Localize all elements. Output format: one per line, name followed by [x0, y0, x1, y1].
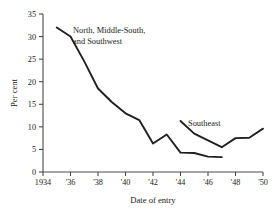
- y-axis-ticks: [39, 14, 43, 172]
- series-label-north-middlesouth-southwest-line2: and Southwest: [73, 37, 123, 46]
- x-tick-label-1938: '38: [93, 178, 103, 187]
- x-axis-title: Date of entry: [130, 195, 176, 205]
- x-tick-label-1946: '46: [203, 178, 213, 187]
- line-chart-svg: 05101520253035 1934'36'38'40'42'44'46'48…: [0, 0, 275, 215]
- series-label-north-middlesouth-southwest-line1: North, Middle-South,: [73, 26, 145, 35]
- y-tick-label-20: 20: [28, 78, 36, 87]
- x-tick-label-1944: '44: [176, 178, 186, 187]
- y-axis-tick-labels: 05101520253035: [28, 10, 36, 177]
- chart-container: 05101520253035 1934'36'38'40'42'44'46'48…: [0, 0, 275, 215]
- x-tick-label-1950: '50: [258, 178, 268, 187]
- y-tick-label-5: 5: [32, 145, 36, 154]
- x-tick-label-1940: '40: [121, 178, 131, 187]
- y-tick-label-0: 0: [32, 168, 36, 177]
- y-tick-label-30: 30: [28, 33, 36, 42]
- y-tick-label-10: 10: [28, 123, 36, 132]
- y-axis-title: Per cent: [9, 78, 19, 107]
- series-line-north-middlesouth-southwest: [57, 28, 222, 158]
- x-tick-label-1942: '42: [148, 178, 158, 187]
- x-axis-ticks: [43, 172, 263, 176]
- x-tick-label-1934: 1934: [35, 178, 51, 187]
- x-tick-label-1936: '36: [66, 178, 76, 187]
- y-tick-label-25: 25: [28, 55, 36, 64]
- x-tick-label-1948: '48: [231, 178, 241, 187]
- y-tick-label-35: 35: [28, 10, 36, 19]
- series-label-southeast: Southeast: [188, 119, 221, 128]
- x-axis-tick-labels: 1934'36'38'40'42'44'46'48'50: [35, 178, 268, 187]
- y-tick-label-15: 15: [28, 100, 36, 109]
